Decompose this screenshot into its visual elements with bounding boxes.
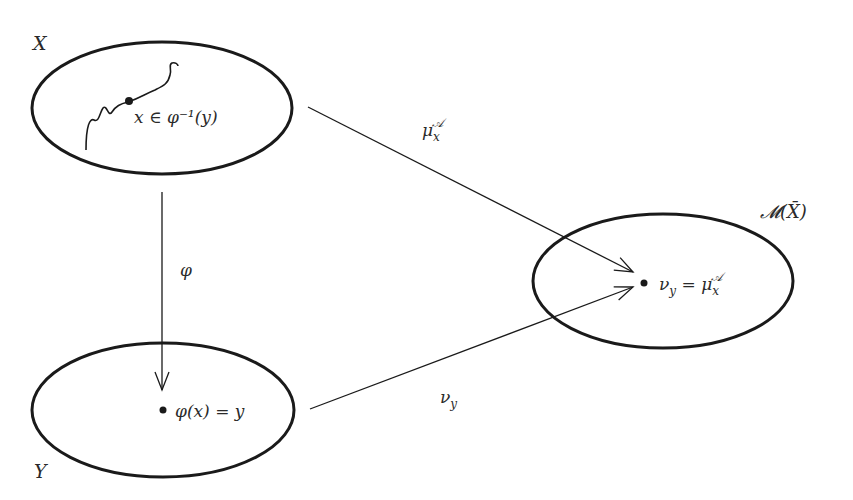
set-x-label: X — [31, 32, 48, 54]
arrow-mu-sup: 𝒜 — [432, 116, 447, 130]
nu-point-dot — [641, 280, 648, 287]
nu-point-eq: = — [676, 274, 701, 294]
arrow-nu-sub: y — [449, 397, 457, 411]
set-m-label: 𝓜(X̄) — [760, 200, 807, 222]
x-point-label: x ∈ φ⁻¹(y) — [134, 107, 218, 127]
arrow-phi-label: φ — [180, 260, 192, 280]
nu-point-lhs: ν — [659, 274, 669, 294]
nu-point-rhs-sub: x — [712, 284, 719, 298]
x-point-dot — [125, 97, 133, 105]
arrow-nu-label: νy — [440, 387, 457, 411]
arrow-nu — [310, 287, 633, 409]
arrow-nu-symbol: ν — [440, 387, 450, 407]
arrow-mu — [308, 107, 633, 272]
nu-point-rhs-sup: 𝒜 — [711, 270, 726, 284]
set-y-label: Y — [34, 460, 49, 482]
nu-point-label: νy = μx𝒜 — [659, 270, 726, 298]
y-point-label: φ(x) = y — [175, 401, 245, 421]
arrow-mu-sub: x — [433, 130, 440, 144]
arrow-mu-label: μx𝒜 — [422, 116, 447, 144]
y-point-dot — [160, 407, 167, 414]
diagram-canvas: X x ∈ φ⁻¹(y) Y φ(x) = y 𝓜(X̄) νy = μx𝒜 φ… — [0, 0, 853, 500]
